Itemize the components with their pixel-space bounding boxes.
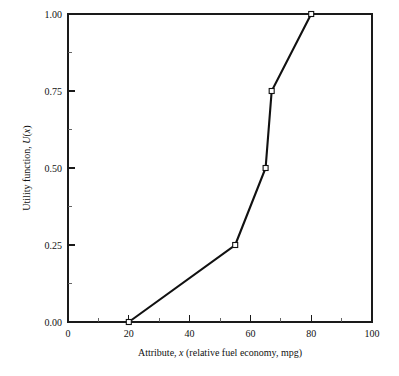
x-tick-label-2: 40 xyxy=(185,328,195,339)
y-tick-label-3: 0.75 xyxy=(45,86,63,97)
data-point-marker xyxy=(309,12,314,17)
y-tick-label-4: 1.00 xyxy=(45,9,63,20)
x-tick-label-1: 20 xyxy=(124,328,134,339)
x-tick-label-0: 0 xyxy=(66,328,71,339)
y-tick-label-0: 0.00 xyxy=(45,317,63,328)
data-point-marker xyxy=(263,166,268,171)
x-axis-title-post: (relative fuel economy, mpg) xyxy=(184,347,302,359)
utility-function-chart: 0.00 0.25 0.50 0.75 1.00 0 20 40 60 80 1… xyxy=(0,0,399,376)
x-tick-label-5: 100 xyxy=(365,328,380,339)
y-axis-title-pre: Utility function, xyxy=(21,144,32,211)
x-tick-label-3: 60 xyxy=(245,328,255,339)
y-axis-title-post: ) xyxy=(21,125,33,128)
data-point-marker xyxy=(126,320,131,325)
y-tick-label-2: 0.50 xyxy=(45,163,63,174)
x-axis-title: Attribute, x (relative fuel economy, mpg… xyxy=(138,347,302,359)
x-tick-label-4: 80 xyxy=(306,328,316,339)
y-tick-label-1: 0.25 xyxy=(45,240,63,251)
x-axis-title-pre: Attribute, xyxy=(138,347,179,358)
y-axis-title: Utility function, U(x) xyxy=(21,125,33,210)
data-point-marker xyxy=(269,89,274,94)
data-point-marker xyxy=(233,243,238,248)
